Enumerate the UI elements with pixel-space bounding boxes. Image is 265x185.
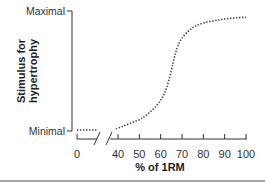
y-axis-title-line1: Stimulus for — [15, 38, 27, 103]
x-tick-label: 50 — [133, 148, 145, 160]
series-stimulus-curve — [116, 17, 246, 129]
y-axis-title-line2: hypertrophy — [27, 38, 39, 103]
x-tick-label: 0 — [74, 148, 80, 160]
x-tick-label: 40 — [112, 148, 124, 160]
y-level-label-minimal: Minimal — [29, 125, 65, 137]
x-tick-label: 70 — [176, 148, 188, 160]
x-tick-label: 100 — [237, 148, 255, 160]
x-tick-label: 60 — [155, 148, 167, 160]
x-tick-label: 90 — [219, 148, 231, 160]
y-level-label-maximal: Maximal — [26, 5, 65, 17]
x-axis-title: % of 1RM — [135, 161, 185, 173]
chart: Maximal Minimal Stimulus for hypertrophy… — [0, 0, 265, 185]
series-layer — [77, 17, 246, 130]
x-axis: 0405060708090100 — [74, 132, 255, 160]
x-tick-label: 80 — [197, 148, 209, 160]
